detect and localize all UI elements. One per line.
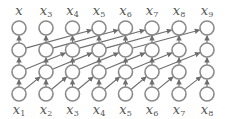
node-r0-c0 xyxy=(12,21,26,35)
node-r1-c1 xyxy=(39,43,53,57)
node-r3-c3 xyxy=(92,87,106,101)
input-label: x4 xyxy=(93,102,105,118)
node-r2-c5 xyxy=(145,65,159,79)
input-label: x5 xyxy=(119,102,131,118)
edge-layer xyxy=(19,30,207,90)
node-r2-c3 xyxy=(92,65,106,79)
node-r1-c0 xyxy=(12,43,26,57)
node-r3-c7 xyxy=(200,87,214,101)
input-labels: x1x2x3x4x5x6x7x8 xyxy=(13,102,213,118)
node-r3-c5 xyxy=(145,87,159,101)
node-r0-c5 xyxy=(145,21,159,35)
node-r2-c6 xyxy=(172,65,186,79)
dilated-edge xyxy=(106,30,172,48)
dilated-edge xyxy=(131,77,146,90)
dilated-convolution-diagram: xx3x4x5x6x7x8x9 x1x2x3x4x5x6x7x8 xyxy=(0,0,225,119)
node-r1-c6 xyxy=(172,43,186,57)
node-r1-c4 xyxy=(119,43,133,57)
node-r0-c4 xyxy=(119,21,133,35)
node-r3-c0 xyxy=(12,87,26,101)
node-r1-c2 xyxy=(66,43,80,57)
output-label: x6 xyxy=(119,3,131,19)
dilated-edge xyxy=(132,30,200,48)
dilated-edge xyxy=(157,77,173,90)
input-label: x8 xyxy=(201,102,213,118)
node-r1-c7 xyxy=(200,43,214,57)
output-label: x9 xyxy=(201,3,213,19)
output-label: x xyxy=(15,3,23,18)
input-label: x1 xyxy=(13,102,25,118)
node-r2-c2 xyxy=(66,65,80,79)
output-label: x4 xyxy=(66,3,78,19)
dilated-edge xyxy=(79,30,145,48)
dilated-edge xyxy=(104,77,119,90)
node-r0-c6 xyxy=(172,21,186,35)
node-r0-c7 xyxy=(200,21,214,35)
node-r3-c2 xyxy=(66,87,80,101)
dilated-edge xyxy=(26,30,92,48)
node-r2-c7 xyxy=(200,65,214,79)
output-label: x3 xyxy=(40,3,52,19)
node-r0-c1 xyxy=(39,21,53,35)
dilated-edge xyxy=(53,30,119,48)
output-label: x7 xyxy=(146,3,158,19)
node-r2-c0 xyxy=(12,65,26,79)
output-labels: xx3x4x5x6x7x8x9 xyxy=(15,3,213,19)
node-r0-c3 xyxy=(92,21,106,35)
input-label: x2 xyxy=(40,102,52,118)
node-r0-c2 xyxy=(66,21,80,35)
node-r2-c1 xyxy=(39,65,53,79)
node-r1-c3 xyxy=(92,43,106,57)
dilated-edge xyxy=(51,77,66,90)
dilated-edge xyxy=(24,77,40,90)
input-label: x3 xyxy=(66,102,78,118)
node-r3-c6 xyxy=(172,87,186,101)
dilated-edge xyxy=(185,77,202,90)
input-label: x7 xyxy=(173,102,185,118)
node-layer xyxy=(12,21,214,101)
dilated-edge xyxy=(78,77,93,90)
node-r3-c1 xyxy=(39,87,53,101)
output-label: x8 xyxy=(173,3,185,19)
node-r1-c5 xyxy=(145,43,159,57)
node-r2-c4 xyxy=(119,65,133,79)
node-r3-c4 xyxy=(119,87,133,101)
output-label: x5 xyxy=(93,3,105,19)
input-label: x6 xyxy=(146,102,158,118)
